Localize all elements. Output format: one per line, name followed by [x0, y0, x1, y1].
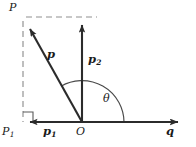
label-axis-q: q: [166, 126, 174, 138]
label-point-p1: P1: [2, 126, 14, 137]
label-point-p1-base: P: [2, 125, 9, 138]
label-origin-o: O: [76, 126, 85, 137]
label-angle-theta: θ: [103, 93, 110, 104]
label-vector-p2-base: p: [88, 52, 96, 66]
label-vector-p1-subscript: 1: [51, 130, 56, 139]
vector-decomposition-figure: P p p2 θ P1 p1 O q: [0, 0, 196, 147]
label-vector-p2: p2: [88, 54, 101, 66]
label-point-p1-subscript: 1: [10, 130, 15, 139]
label-point-p: P: [9, 2, 16, 13]
right-angle-marker: [23, 112, 33, 122]
label-vector-p: p: [47, 49, 55, 61]
label-vector-p1-base: p: [43, 124, 51, 138]
label-vector-p2-subscript: 2: [96, 58, 101, 67]
label-vector-p1: p1: [43, 126, 56, 138]
vector-p-arrow: [30, 29, 82, 122]
